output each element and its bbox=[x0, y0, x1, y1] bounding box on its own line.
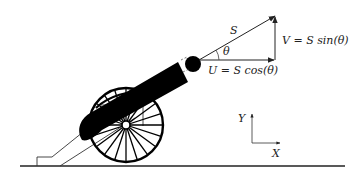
cannon-barrel bbox=[79, 62, 188, 140]
x-axis-label: X bbox=[271, 147, 281, 160]
diagram-canvas: S θ V = S sin(θ) U = S cos(θ) Y X bbox=[0, 0, 359, 173]
wheel-spoke bbox=[126, 125, 155, 146]
vector-s bbox=[199, 16, 275, 60]
wheel-spoke bbox=[126, 125, 137, 159]
wheel-spoke bbox=[126, 125, 160, 136]
label-v: V = S sin(θ) bbox=[282, 34, 349, 47]
wheel-spoke bbox=[126, 125, 147, 154]
y-axis-label: Y bbox=[238, 112, 247, 125]
theta-arc bbox=[216, 50, 219, 60]
label-theta: θ bbox=[223, 45, 230, 58]
label-s: S bbox=[230, 24, 238, 37]
label-u: U = S cos(θ) bbox=[208, 64, 278, 77]
wheel-spoke bbox=[105, 125, 126, 154]
cannon-diagram: S θ V = S sin(θ) U = S cos(θ) Y X bbox=[0, 0, 359, 173]
